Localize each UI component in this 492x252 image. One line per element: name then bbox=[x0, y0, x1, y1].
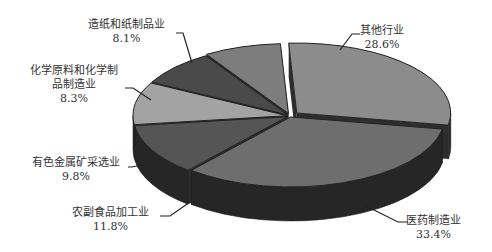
pie-slice-0 bbox=[289, 43, 451, 125]
label-pharma: 医药制造业 33.4% bbox=[406, 214, 461, 242]
label-agri: 农副食品加工业 11.8% bbox=[72, 206, 149, 234]
leader-line-paper bbox=[176, 33, 192, 63]
label-metal: 有色金属矿采选业 9.8% bbox=[32, 156, 120, 184]
label-chem: 化学原料和化学制 品制造业 8.3% bbox=[30, 64, 118, 106]
leader-line-agri bbox=[160, 202, 190, 216]
label-other: 其他行业 28.6% bbox=[360, 24, 404, 52]
label-paper: 造纸和纸制品业 8.1% bbox=[88, 18, 165, 46]
pie-tops bbox=[133, 43, 451, 187]
